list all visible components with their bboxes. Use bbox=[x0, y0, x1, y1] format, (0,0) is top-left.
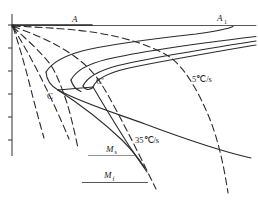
mf-label-subscript: f bbox=[113, 176, 115, 182]
lower-branch-sweep bbox=[58, 90, 251, 158]
cooling-curve-fast bbox=[13, 27, 69, 139]
austenite-label: A bbox=[71, 14, 78, 24]
diagram-canvas: A A 1 C C′ 5℃/s 35℃/s M s M f bbox=[0, 0, 258, 201]
cooling-rate-5-label: 5℃/s bbox=[192, 74, 212, 84]
cooling-rate-35-label: 35℃/s bbox=[135, 135, 159, 145]
axis-tick-marks bbox=[8, 25, 12, 140]
ms-label-subscript: s bbox=[115, 149, 118, 155]
nose-c-label: C bbox=[47, 91, 53, 101]
ms-label: M bbox=[105, 144, 114, 154]
a1-label-subscript: 1 bbox=[224, 19, 227, 25]
c-curve-2-nose bbox=[71, 80, 81, 92]
a1-label: A bbox=[216, 13, 223, 23]
ttt-start-nose bbox=[46, 72, 58, 90]
nose-c-prime-label: C′ bbox=[96, 76, 104, 86]
cooling-curve-fastest bbox=[13, 27, 44, 138]
mf-label: M bbox=[103, 170, 112, 180]
cct-diagram: A A 1 C C′ 5℃/s 35℃/s M s M f bbox=[0, 0, 258, 201]
c-curve-2-upper-branch bbox=[71, 37, 256, 81]
